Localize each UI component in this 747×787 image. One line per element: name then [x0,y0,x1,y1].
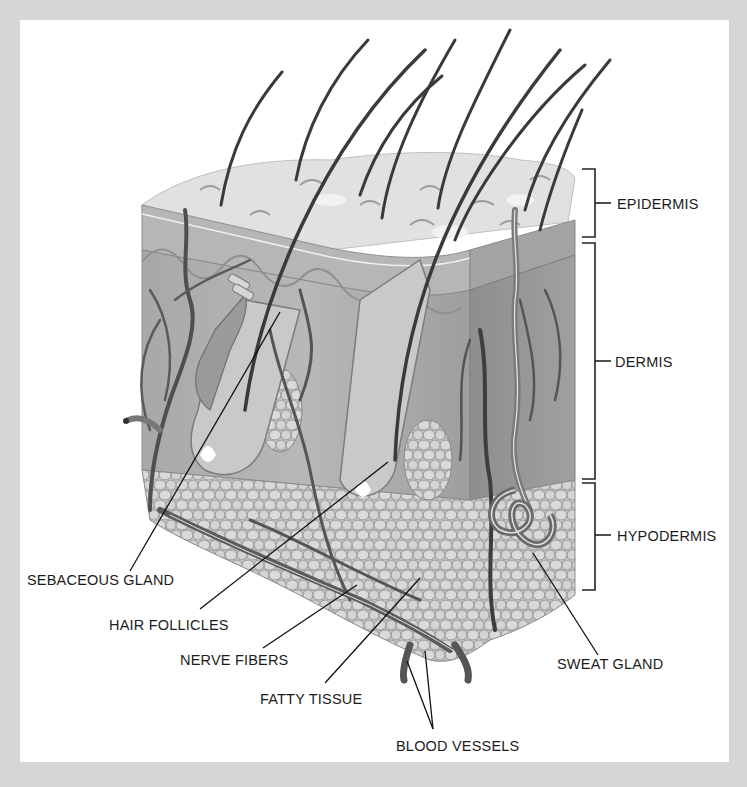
label-hair-follicles: HAIR FOLLICLES [109,618,229,633]
label-hypodermis: HYPODERMIS [617,529,717,544]
label-blood-vessels: BLOOD VESSELS [396,739,520,754]
label-fatty-tissue: FATTY TISSUE [260,692,362,707]
layer-brackets [582,169,611,590]
label-dermis: DERMIS [615,355,673,370]
label-sweat-gland: SWEAT GLAND [557,657,663,672]
label-nerve-fibers: NERVE FIBERS [180,653,289,668]
label-sebaceous-gland: SEBACEOUS GLAND [27,573,174,588]
label-epidermis: EPIDERMIS [617,197,699,212]
